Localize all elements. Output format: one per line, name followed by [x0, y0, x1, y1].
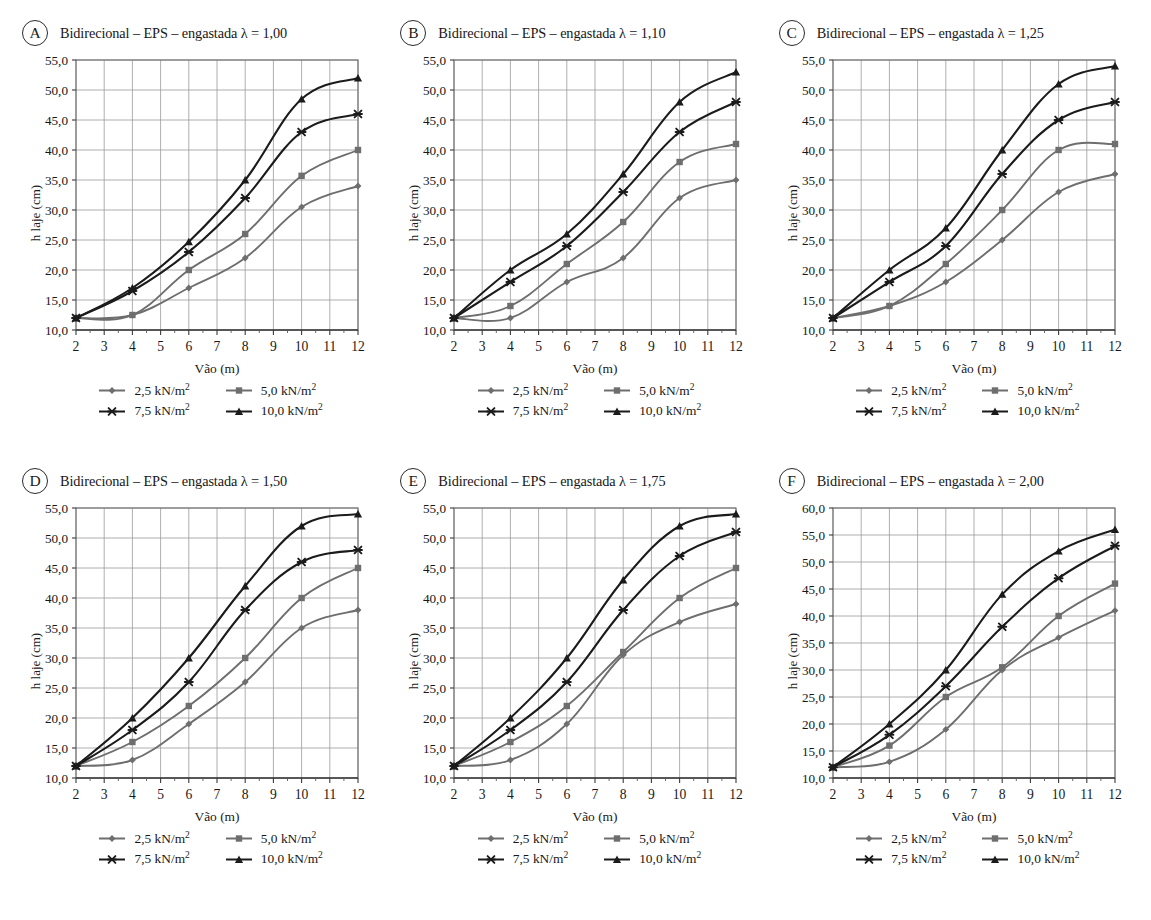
- legend-label: 10,0 kN/m2: [261, 850, 323, 867]
- svg-text:6: 6: [564, 339, 571, 354]
- svg-text:9: 9: [1027, 339, 1034, 354]
- legend: 2,5 kN/m2 5,0 kN/m2 7,5 kN/m2 10,0 kN/m2: [771, 830, 1137, 868]
- svg-text:50,0: 50,0: [45, 83, 68, 98]
- legend-swatch-3: [980, 853, 1010, 866]
- svg-text:5: 5: [914, 339, 921, 354]
- legend-item-2[interactable]: 7,5 kN/m2: [97, 850, 189, 867]
- legend-item-3[interactable]: 10,0 kN/m2: [224, 402, 323, 419]
- line-chart-f: 10,015,020,025,030,035,040,045,050,055,0…: [771, 496, 1131, 826]
- legend-item-3[interactable]: 10,0 kN/m2: [980, 402, 1079, 419]
- line-chart-e: 10,015,020,025,030,035,040,045,050,055,0…: [392, 496, 752, 826]
- svg-text:40,0: 40,0: [802, 609, 825, 624]
- legend: 2,5 kN/m2 5,0 kN/m2 7,5 kN/m2 10,0 kN/m2: [14, 830, 380, 868]
- legend: 2,5 kN/m2 5,0 kN/m2 7,5 kN/m2 10,0 kN/m2: [14, 382, 380, 420]
- svg-text:7: 7: [970, 787, 977, 802]
- figure-six-panel-chart-grid: A Bidirecional – EPS – engastada λ = 1,0…: [0, 0, 1151, 920]
- svg-text:15,0: 15,0: [45, 293, 68, 308]
- legend-label: 10,0 kN/m2: [1017, 850, 1079, 867]
- legend-swatch-2: [854, 853, 884, 866]
- svg-text:9: 9: [648, 787, 655, 802]
- svg-text:60,0: 60,0: [802, 501, 825, 516]
- svg-text:25,0: 25,0: [423, 233, 446, 248]
- svg-text:30,0: 30,0: [802, 663, 825, 678]
- legend-item-0[interactable]: 2,5 kN/m2: [97, 382, 189, 399]
- legend-label: 7,5 kN/m2: [891, 850, 946, 867]
- legend-item-3[interactable]: 10,0 kN/m2: [602, 402, 701, 419]
- svg-text:7: 7: [214, 787, 221, 802]
- legend-item-1[interactable]: 5,0 kN/m2: [602, 830, 701, 847]
- plot-canvas: 10,015,020,025,030,035,040,045,050,055,0…: [392, 496, 758, 826]
- panel-c: C Bidirecional – EPS – engastada λ = 1,2…: [765, 18, 1143, 466]
- plot-canvas: 10,015,020,025,030,035,040,045,050,055,0…: [14, 48, 380, 378]
- legend-item-2[interactable]: 7,5 kN/m2: [854, 402, 946, 419]
- plot-area: h laje (cm) 10,015,020,025,030,035,040,0…: [771, 496, 1137, 826]
- legend-swatch-0: [476, 384, 506, 397]
- panel-header: F Bidirecional – EPS – engastada λ = 2,0…: [771, 466, 1137, 496]
- legend-item-0[interactable]: 2,5 kN/m2: [854, 382, 946, 399]
- line-chart-a: 10,015,020,025,030,035,040,045,050,055,0…: [14, 48, 374, 378]
- panel-a: A Bidirecional – EPS – engastada λ = 1,0…: [8, 18, 386, 466]
- svg-text:8: 8: [242, 339, 249, 354]
- legend-label: 7,5 kN/m2: [891, 402, 946, 419]
- svg-text:35,0: 35,0: [802, 636, 825, 651]
- svg-text:30,0: 30,0: [423, 651, 446, 666]
- panel-badge-e: E: [400, 468, 426, 494]
- legend-item-1[interactable]: 5,0 kN/m2: [980, 382, 1079, 399]
- svg-text:5: 5: [536, 339, 543, 354]
- svg-text:50,0: 50,0: [802, 83, 825, 98]
- svg-text:10: 10: [673, 339, 687, 354]
- svg-text:40,0: 40,0: [423, 591, 446, 606]
- legend-item-0[interactable]: 2,5 kN/m2: [854, 830, 946, 847]
- svg-text:45,0: 45,0: [423, 113, 446, 128]
- legend-item-2[interactable]: 7,5 kN/m2: [476, 850, 568, 867]
- legend-item-2[interactable]: 7,5 kN/m2: [97, 402, 189, 419]
- svg-text:11: 11: [323, 339, 336, 354]
- svg-text:3: 3: [101, 339, 108, 354]
- svg-text:4: 4: [507, 339, 514, 354]
- legend-item-2[interactable]: 7,5 kN/m2: [854, 850, 946, 867]
- legend-item-1[interactable]: 5,0 kN/m2: [602, 382, 701, 399]
- svg-text:4: 4: [886, 787, 893, 802]
- svg-text:15,0: 15,0: [802, 744, 825, 759]
- legend-item-1[interactable]: 5,0 kN/m2: [224, 382, 323, 399]
- panel-b: B Bidirecional – EPS – engastada λ = 1,1…: [386, 18, 764, 466]
- svg-text:50,0: 50,0: [423, 83, 446, 98]
- svg-text:40,0: 40,0: [423, 143, 446, 158]
- svg-text:11: 11: [1080, 787, 1093, 802]
- legend-item-1[interactable]: 5,0 kN/m2: [224, 830, 323, 847]
- plot-canvas: 10,015,020,025,030,035,040,045,050,055,0…: [392, 48, 758, 378]
- legend-item-3[interactable]: 10,0 kN/m2: [602, 850, 701, 867]
- svg-text:10,0: 10,0: [802, 771, 825, 786]
- legend-item-0[interactable]: 2,5 kN/m2: [97, 830, 189, 847]
- svg-text:30,0: 30,0: [802, 203, 825, 218]
- legend-label: 5,0 kN/m2: [639, 382, 694, 399]
- svg-text:30,0: 30,0: [45, 203, 68, 218]
- svg-text:7: 7: [214, 339, 221, 354]
- legend-swatch-3: [224, 405, 254, 418]
- legend-item-3[interactable]: 10,0 kN/m2: [224, 850, 323, 867]
- svg-text:45,0: 45,0: [423, 561, 446, 576]
- legend-label: 5,0 kN/m2: [1017, 382, 1072, 399]
- legend-item-0[interactable]: 2,5 kN/m2: [476, 830, 568, 847]
- svg-text:25,0: 25,0: [45, 233, 68, 248]
- svg-text:55,0: 55,0: [802, 528, 825, 543]
- svg-text:15,0: 15,0: [45, 741, 68, 756]
- legend-item-2[interactable]: 7,5 kN/m2: [476, 402, 568, 419]
- legend-swatch-1: [602, 384, 632, 397]
- svg-text:12: 12: [351, 339, 365, 354]
- legend-item-3[interactable]: 10,0 kN/m2: [980, 850, 1079, 867]
- legend-swatch-1: [224, 384, 254, 397]
- legend-item-1[interactable]: 5,0 kN/m2: [980, 830, 1079, 847]
- svg-text:20,0: 20,0: [423, 263, 446, 278]
- legend-swatch-0: [97, 384, 127, 397]
- svg-text:50,0: 50,0: [423, 531, 446, 546]
- svg-text:55,0: 55,0: [45, 501, 68, 516]
- svg-text:20,0: 20,0: [802, 263, 825, 278]
- svg-text:Vão (m): Vão (m): [195, 809, 240, 824]
- legend-label: 2,5 kN/m2: [513, 382, 568, 399]
- svg-text:2: 2: [829, 787, 836, 802]
- svg-text:12: 12: [351, 787, 365, 802]
- legend-item-0[interactable]: 2,5 kN/m2: [476, 382, 568, 399]
- svg-text:3: 3: [857, 787, 864, 802]
- svg-text:6: 6: [942, 787, 949, 802]
